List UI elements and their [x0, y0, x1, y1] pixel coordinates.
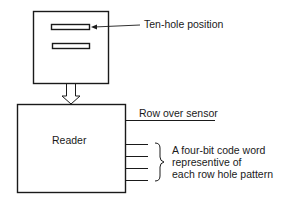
curly-brace-icon — [155, 143, 164, 181]
code-word-line-2: representive of — [172, 156, 273, 168]
code-word-label: A four-bit code word representive of eac… — [172, 144, 273, 180]
row-over-sensor-label: Row over sensor — [139, 107, 218, 119]
reader-label: Reader — [52, 134, 86, 146]
output-lines — [126, 145, 148, 181]
code-word-line-3: each row hole pattern — [172, 168, 273, 180]
hollow-down-arrow-icon — [62, 84, 80, 104]
reader-box — [18, 105, 126, 193]
pointer-arrow-icon — [91, 25, 140, 30]
hole-slot-top — [52, 25, 90, 30]
code-word-line-1: A four-bit code word — [172, 144, 273, 156]
punched-card — [34, 12, 109, 84]
ten-hole-position-label: Ten-hole position — [144, 18, 223, 30]
hole-slot-bottom — [53, 44, 90, 49]
